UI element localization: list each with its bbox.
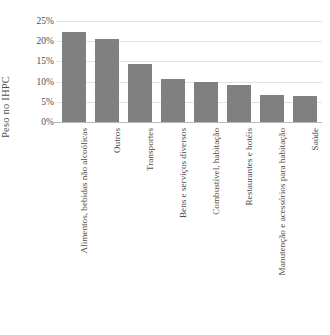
x-tick-text-6: Manutenção e acessórios para habitação [277,128,287,275]
x-tick-text-5: Restaurantes e hotéis [244,128,254,206]
x-tick-text-2: Transportes [145,128,155,171]
x-tick-text-0: Alimentos, bebidas não alcoólicas [79,128,89,254]
y-axis-title: Peso no IHPC [0,48,18,138]
bar-chart: Peso no IHPC 25% 20% 15% 10% 5% 0% Alime… [0,0,330,335]
x-tick-label-2: Transportes [145,85,159,128]
x-tick-text-7: Saúde [310,128,320,150]
x-tick-label-6: Manutenção e acessórios para habitação [277,0,291,128]
x-tick-label-4: Combustível, habitação [211,41,225,128]
y-tick-label-0: 0% [24,117,54,127]
y-tick-label-20: 20% [24,36,54,46]
x-tick-text-1: Outros [112,128,122,153]
y-tick-label-5: 5% [24,97,54,107]
x-tick-text-4: Combustível, habitação [211,128,221,215]
x-tick-label-5: Restaurantes e hotéis [244,50,258,128]
x-tick-label-3: Bens e serviços diversos [178,38,192,128]
y-tick-label-15: 15% [24,56,54,66]
x-tick-label-7: Saúde [310,106,324,128]
y-tick-label-10: 10% [24,77,54,87]
y-tick-label-25: 25% [24,16,54,26]
x-tick-label-1: Outros [112,103,126,128]
x-tick-text-3: Bens e serviços diversos [178,128,188,218]
x-tick-label-0: Alimentos, bebidas não alcoólicas [79,2,93,128]
